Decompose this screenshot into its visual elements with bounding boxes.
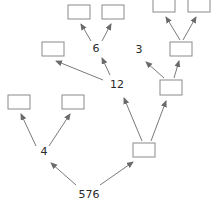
edge-6-to-box-top-second bbox=[102, 24, 111, 41]
blank-box-mid-left bbox=[42, 42, 64, 56]
blank-box-bottom-right bbox=[133, 143, 155, 157]
edge-box-to-12 bbox=[124, 98, 142, 141]
blank-box-top-left bbox=[68, 5, 90, 19]
edge-4-to-box-left-2 bbox=[49, 114, 70, 146]
blank-box-low-right bbox=[160, 80, 182, 95]
edge-box-low-right-to-box-mid-right bbox=[174, 61, 179, 78]
edge-box-to-box-low-right bbox=[151, 101, 166, 141]
blank-box-top-second bbox=[102, 5, 124, 19]
node-label-12: 12 bbox=[110, 78, 124, 91]
edge-12-to-6 bbox=[102, 58, 110, 75]
edge-box-mid-right-to-tr-1 bbox=[166, 17, 180, 40]
blank-box-top-right-1 bbox=[153, 0, 175, 12]
edge-4-to-box-left-1 bbox=[21, 114, 36, 146]
edge-6-to-box-top-left bbox=[81, 24, 91, 41]
node-label-6: 6 bbox=[93, 42, 100, 55]
edge-12-to-box-mid-left bbox=[56, 61, 103, 80]
factor-tree-diagram: 576 4 12 6 3 bbox=[0, 0, 212, 210]
node-label-3: 3 bbox=[136, 43, 143, 56]
blank-box-left-1 bbox=[8, 95, 30, 109]
node-label-576: 576 bbox=[79, 188, 100, 201]
edge-576-to-4 bbox=[51, 163, 76, 185]
node-label-4: 4 bbox=[41, 145, 48, 158]
blank-box-top-right-2 bbox=[188, 0, 210, 12]
edge-576-to-box bbox=[100, 162, 133, 185]
blank-box-mid-right bbox=[170, 42, 192, 56]
edge-box-mid-right-to-tr-2 bbox=[183, 17, 196, 40]
blank-box-left-2 bbox=[62, 95, 84, 109]
edge-box-low-right-to-3 bbox=[146, 62, 164, 78]
